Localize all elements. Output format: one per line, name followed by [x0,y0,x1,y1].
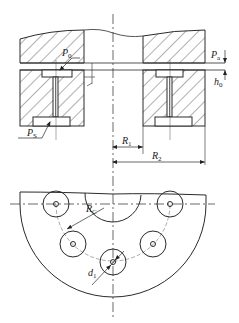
label-r1: R1 [121,135,132,148]
label-pa: Pa [210,49,221,62]
supply-left [33,117,70,126]
plan-view [10,191,215,297]
recess-right [156,70,183,77]
label-rc: RC [85,203,97,216]
label-h0: h0 [214,76,223,89]
diagram-svg: P0 Pa h0 PS R1 R2 RC d1 [0,0,239,323]
bearing-diagram: P0 Pa h0 PS R1 R2 RC d1 [0,0,239,323]
runner-right [143,30,205,63]
recess-2 [60,231,86,257]
break-line [84,29,143,36]
supply-right [155,117,192,126]
label-d1: d1 [88,267,97,280]
label-r2: R2 [151,150,162,163]
plan-labels: RC d1 [85,203,97,280]
recess-4 [140,231,166,257]
recess-left [42,70,72,77]
